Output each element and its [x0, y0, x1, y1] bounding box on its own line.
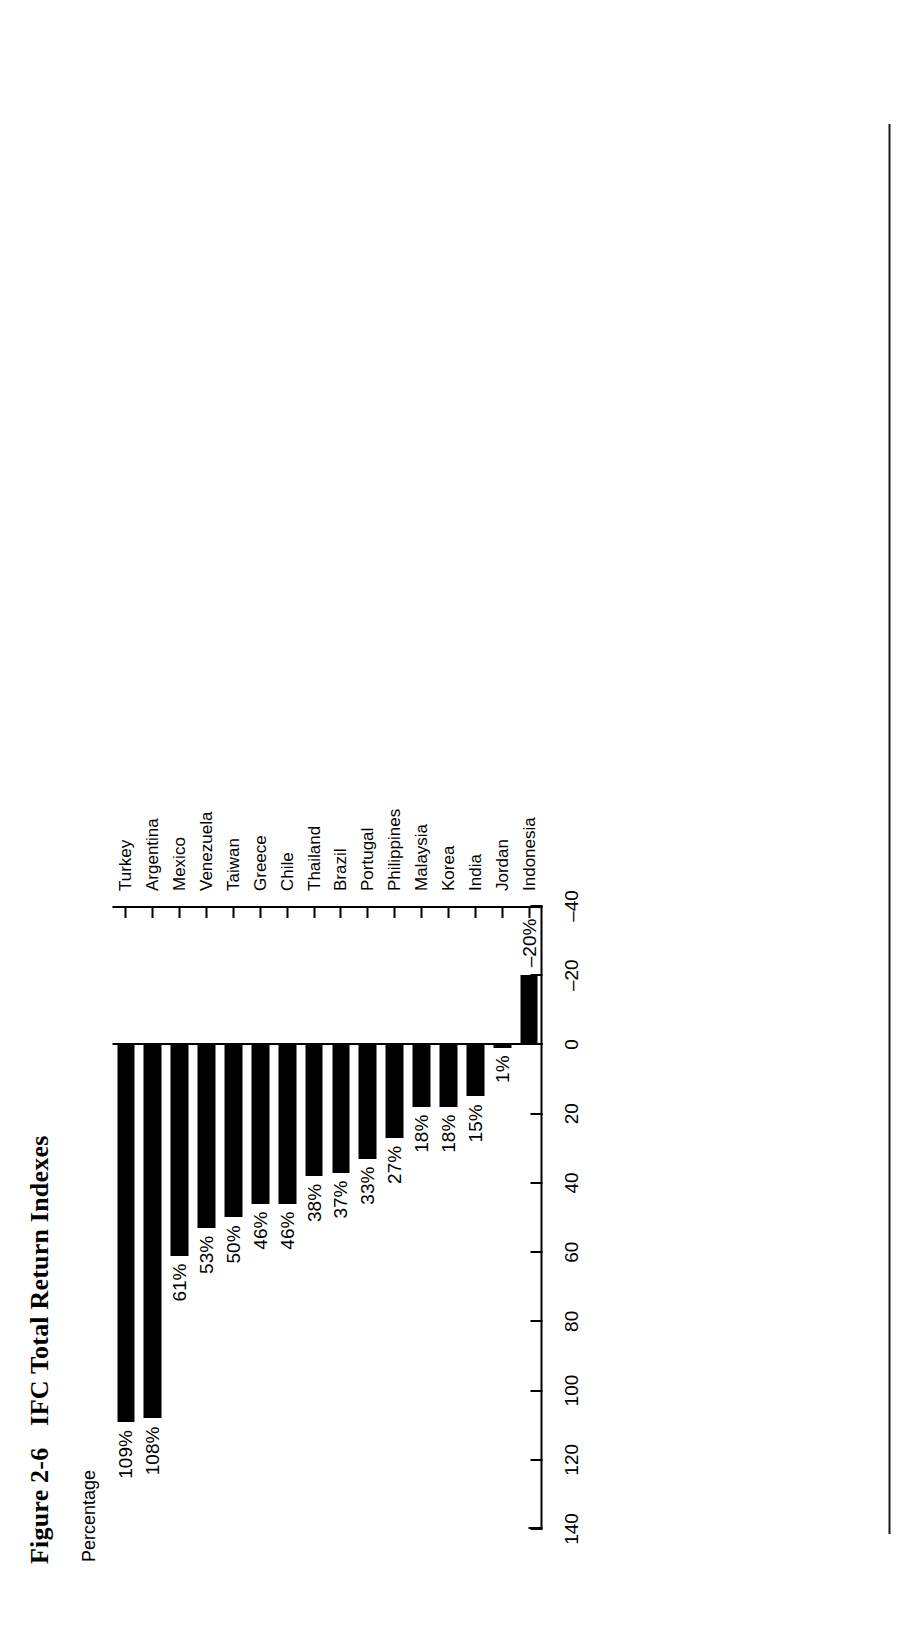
bar-value-label: 46%: [249, 1212, 271, 1250]
category-label: Venezuela: [196, 812, 216, 891]
bar-value-label: 38%: [303, 1184, 325, 1222]
bar: [170, 1044, 188, 1255]
value-tick: [530, 1182, 542, 1184]
category-tick: [313, 906, 315, 918]
category-label: Brazil: [330, 848, 350, 891]
bar-value-label: 50%: [222, 1225, 244, 1263]
category-tick: [205, 906, 207, 918]
bar: [278, 1044, 296, 1203]
category-label: Turkey: [115, 840, 135, 891]
figure-number: Figure 2-6: [24, 1448, 53, 1564]
category-tick: [124, 906, 126, 918]
category-tick: [232, 906, 234, 918]
bar: [117, 1044, 135, 1421]
category-tick: [259, 906, 261, 918]
y-axis-title: Percentage: [78, 1470, 99, 1562]
value-tick: [530, 905, 542, 907]
category-label: Philippines: [384, 809, 404, 891]
page-title: Figure 2-6IFC Total Return Indexes: [24, 1136, 54, 1564]
category-label: Korea: [438, 846, 458, 891]
bar-value-label: 53%: [195, 1236, 217, 1274]
bar-value-label: 109%: [114, 1430, 136, 1479]
category-label: Chile: [277, 852, 297, 891]
category-tick: [286, 906, 288, 918]
category-tick: [447, 906, 449, 918]
value-tick-label: 20: [560, 1103, 582, 1124]
value-tick-label: 0: [560, 1039, 582, 1050]
category-tick: [151, 906, 153, 918]
category-label: Malaysia: [411, 824, 431, 891]
bar: [143, 1044, 161, 1418]
value-tick: [530, 1320, 542, 1322]
bar: [197, 1044, 215, 1227]
category-label: Mexico: [169, 837, 189, 891]
value-tick-label: 60: [560, 1242, 582, 1263]
bar: [358, 1044, 376, 1158]
bar-value-label: 37%: [329, 1180, 351, 1218]
value-tick-label: 120: [560, 1444, 582, 1476]
category-tick: [366, 906, 368, 918]
bar-value-label: 18%: [437, 1115, 459, 1153]
category-tick: [528, 906, 530, 918]
footer-divider: [888, 124, 890, 1534]
category-tick: [474, 906, 476, 918]
bar-value-label: 27%: [383, 1146, 405, 1184]
value-tick-label: –20: [560, 959, 582, 991]
chart-plot-area: 140120100806040200–20–40 TurkeyArgentina…: [112, 906, 542, 1529]
value-tick: [530, 1113, 542, 1115]
value-tick: [530, 1528, 542, 1530]
bar-value-label: 18%: [410, 1115, 432, 1153]
value-tick-label: 140: [560, 1513, 582, 1545]
category-label: Portugal: [357, 828, 377, 891]
value-axis-line: [540, 906, 542, 1529]
category-label: India: [465, 854, 485, 891]
bar: [385, 1044, 403, 1137]
category-tick: [420, 906, 422, 918]
bar: [466, 1044, 484, 1096]
value-tick: [530, 1251, 542, 1253]
bar: [224, 1044, 242, 1217]
category-label: Jordan: [492, 839, 512, 891]
category-label: Greece: [250, 835, 270, 891]
category-axis-line: [112, 906, 542, 908]
bar: [493, 1044, 511, 1047]
bar-value-label: 61%: [168, 1264, 190, 1302]
bar-value-label: 108%: [141, 1427, 163, 1476]
value-tick: [530, 1459, 542, 1461]
category-tick: [339, 906, 341, 918]
bar: [305, 1044, 323, 1176]
value-tick-label: 100: [560, 1375, 582, 1407]
category-tick: [178, 906, 180, 918]
category-tick: [393, 906, 395, 918]
bar-value-label: 1%: [491, 1055, 513, 1082]
bar: [439, 1044, 457, 1106]
category-tick: [501, 906, 503, 918]
category-label: Argentina: [142, 818, 162, 891]
bar-value-label: –20%: [518, 919, 540, 968]
bar-value-label: 46%: [276, 1212, 298, 1250]
bar: [412, 1044, 430, 1106]
value-tick-label: 40: [560, 1172, 582, 1193]
value-tick-label: –40: [560, 890, 582, 922]
category-label: Thailand: [304, 826, 324, 891]
bar: [251, 1044, 269, 1203]
bar-value-label: 33%: [356, 1167, 378, 1205]
category-label: Indonesia: [519, 817, 539, 891]
bar-value-label: 15%: [464, 1104, 486, 1142]
category-label: Taiwan: [223, 838, 243, 891]
bar: [332, 1044, 350, 1172]
figure-page: Figure 2-6IFC Total Return Indexes Perce…: [0, 0, 907, 1652]
bar: [520, 975, 538, 1044]
value-tick-label: 80: [560, 1311, 582, 1332]
value-tick: [530, 1390, 542, 1392]
figure-title-text: IFC Total Return Indexes: [24, 1136, 53, 1426]
